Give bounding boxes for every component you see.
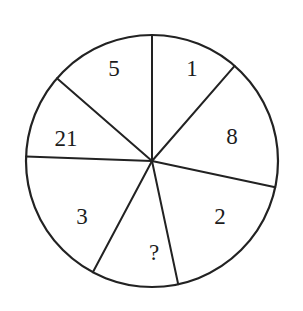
sector-label-2: 2 xyxy=(214,204,226,229)
sector-label-unknown: ? xyxy=(149,240,159,265)
wheel-diagram: 182?3215 xyxy=(0,0,303,311)
sector-label-8: 8 xyxy=(226,124,238,149)
sector-label-21: 21 xyxy=(55,126,78,151)
sector-label-3: 3 xyxy=(76,204,88,229)
sector-label-1: 1 xyxy=(186,56,198,81)
sector-label-5: 5 xyxy=(108,56,120,81)
puzzle-figure: 182?3215 xyxy=(0,0,303,311)
